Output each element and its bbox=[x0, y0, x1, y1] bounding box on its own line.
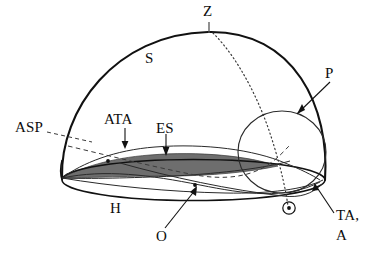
label-es: ES bbox=[156, 121, 174, 136]
diagram-canvas bbox=[0, 0, 373, 255]
sun-symbol-icon bbox=[283, 202, 295, 214]
label-observer: O bbox=[156, 229, 167, 244]
point-ata-left bbox=[106, 159, 110, 163]
ta-a-leader-line bbox=[316, 186, 334, 213]
ata-arrow-head bbox=[122, 141, 129, 149]
label-asp: ASP bbox=[15, 120, 43, 135]
celestial-dome-figure: Z S P ASP ATA ES H O TA, A bbox=[0, 0, 373, 255]
label-ta-a-line2: A bbox=[336, 228, 347, 243]
pole-circle bbox=[238, 111, 326, 193]
label-ata: ATA bbox=[104, 112, 133, 127]
p-arrow-head bbox=[297, 104, 305, 114]
label-pole-circle: P bbox=[325, 66, 334, 81]
point-observer bbox=[193, 183, 197, 187]
o-arrow-line bbox=[165, 189, 196, 228]
label-zenith: Z bbox=[203, 4, 212, 19]
label-sphere: S bbox=[145, 51, 154, 66]
label-ta-a-line1: TA, bbox=[336, 208, 359, 223]
label-horizon: H bbox=[110, 201, 121, 216]
